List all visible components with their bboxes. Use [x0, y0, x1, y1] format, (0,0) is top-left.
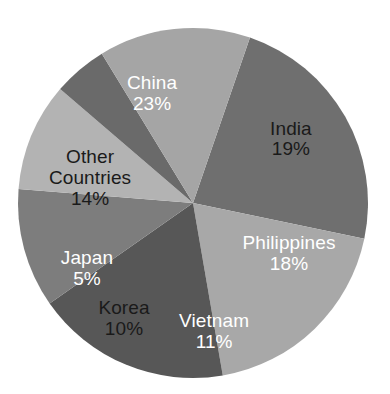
pie-chart: China23%India19%Philippines18%Vietnam11%… — [0, 0, 390, 394]
pie-chart-svg — [0, 0, 390, 394]
pie-slices-group — [18, 28, 368, 378]
